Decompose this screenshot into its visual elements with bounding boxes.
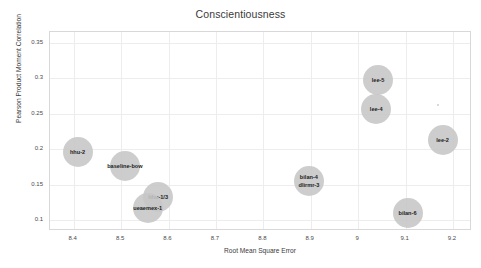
data-point-bubble[interactable] <box>428 125 458 155</box>
y-tick-label: 0.3 <box>19 74 43 80</box>
y-tick-label: 0.35 <box>19 39 43 45</box>
x-tick-label: 9.2 <box>448 235 456 241</box>
data-point-bubble[interactable] <box>437 104 439 106</box>
data-point-bubble[interactable] <box>393 198 423 228</box>
data-point-bubble[interactable] <box>133 193 163 223</box>
gridline-y-0.3 <box>50 78 470 79</box>
x-tick-label: 9.1 <box>400 235 408 241</box>
gridline-y-0.35 <box>50 43 470 44</box>
gridline-x-8.8 <box>263 32 264 229</box>
y-tick-label: 0.2 <box>19 145 43 151</box>
y-tick-label: 0.25 <box>19 110 43 116</box>
data-point-bubble[interactable] <box>294 166 324 196</box>
y-tick-label: 0.15 <box>19 181 43 187</box>
data-point-bubble[interactable] <box>361 94 391 124</box>
plot-area: hhu-2baseline-bowhhu-1/3ueaemex-1bilan-4… <box>49 31 471 230</box>
x-tick-label: 8.6 <box>163 235 171 241</box>
gridline-x-8.9 <box>311 32 312 229</box>
scatter-chart: Conscientiousness hhu-2baseline-bowhhu-1… <box>0 0 481 268</box>
gridline-x-9 <box>358 32 359 229</box>
gridline-x-8.7 <box>216 32 217 229</box>
gridline-x-8.5 <box>121 32 122 229</box>
data-point-bubble[interactable] <box>110 151 140 181</box>
y-tick-label: 0.1 <box>19 216 43 222</box>
x-tick-label: 8.5 <box>116 235 124 241</box>
y-axis-label: Pearson Product Moment Correlation <box>15 0 22 139</box>
x-tick-label: 8.9 <box>306 235 314 241</box>
gridline-y-0.2 <box>50 149 470 150</box>
gridline-x-8.4 <box>74 32 75 229</box>
x-axis-label: Root Mean Square Error <box>49 247 471 254</box>
data-point-bubble[interactable] <box>63 137 93 167</box>
data-point-bubble[interactable] <box>363 65 393 95</box>
gridline-y-0.25 <box>50 114 470 115</box>
x-tick-label: 8.8 <box>258 235 266 241</box>
gridline-y-0.15 <box>50 185 470 186</box>
x-tick-label: 8.4 <box>69 235 77 241</box>
x-tick-label: 9 <box>356 235 359 241</box>
chart-title: Conscientiousness <box>0 8 481 20</box>
x-tick-label: 8.7 <box>211 235 219 241</box>
